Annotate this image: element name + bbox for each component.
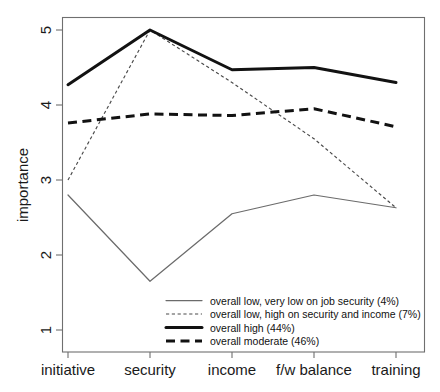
chart-canvas: 5 4 3 2 1 importance initiative security… [0, 0, 440, 392]
legend-label-1: overall low, high on security and income… [210, 308, 421, 320]
x-tick-label-income: income [208, 361, 256, 378]
y-tick-label-1: 1 [37, 326, 54, 334]
x-tick-label-training: training [371, 361, 420, 378]
x-tick-label-fw-balance: f/w balance [276, 361, 352, 378]
y-tick-label-4: 4 [37, 101, 54, 109]
legend-label-0: overall low, very low on job security (4… [210, 295, 399, 307]
y-axis-title: importance [14, 148, 31, 222]
y-tick-label-3: 3 [37, 176, 54, 184]
line-chart: 5 4 3 2 1 importance initiative security… [0, 0, 440, 392]
y-tick-label-2: 2 [37, 251, 54, 259]
legend-label-3: overall moderate (46%) [210, 335, 319, 347]
x-tick-label-initiative: initiative [41, 361, 95, 378]
legend-label-2: overall high (44%) [210, 322, 295, 334]
x-tick-label-security: security [124, 361, 176, 378]
y-tick-label-5: 5 [37, 26, 54, 34]
